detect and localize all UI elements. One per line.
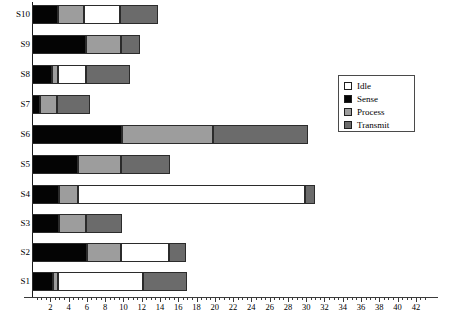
legend-label-process: Process [357, 108, 385, 117]
x-tick [370, 297, 371, 300]
x-tick [420, 297, 421, 300]
segment-s6-process [122, 125, 213, 144]
segment-s6-sense [32, 125, 122, 144]
y-axis-label-s5: S5 [0, 160, 30, 169]
bar-s6 [32, 125, 308, 144]
x-tick-label-36: 36 [357, 303, 366, 312]
x-tick-label-6: 6 [85, 303, 89, 312]
legend-item-transmit[interactable]: Transmit [344, 119, 409, 131]
bar-s2 [32, 243, 186, 262]
y-axis-label-s1: S1 [0, 277, 30, 286]
x-tick [37, 297, 38, 300]
bar-s7 [32, 95, 90, 114]
x-tick-label-24: 24 [247, 303, 256, 312]
x-tick [59, 297, 60, 300]
x-tick [101, 297, 102, 300]
x-tick [279, 297, 280, 300]
x-tick [375, 297, 376, 300]
x-tick-label-12: 12 [137, 303, 146, 312]
x-tick [91, 297, 92, 300]
stacked-bar-chart: S10S9S8S7S6S5S4S3S2S1 246810121416182022… [0, 0, 451, 325]
x-tick [229, 297, 230, 300]
x-tick [137, 297, 138, 300]
x-tick [224, 297, 225, 300]
segment-s9-sense [32, 35, 86, 54]
segment-s5-transmit [121, 155, 170, 174]
x-tick [297, 297, 298, 300]
bar-s3 [32, 214, 122, 233]
x-axis-ticks: 24681012141618202224262830323436384042 [32, 297, 451, 317]
segment-s5-process [78, 155, 121, 174]
segment-s7-process [40, 95, 56, 114]
segment-s8-idle [58, 65, 85, 84]
x-tick-label-42: 42 [412, 303, 421, 312]
segment-s10-sense [32, 5, 58, 24]
bar-s8 [32, 65, 130, 84]
chart-legend: IdleSenseProcessTransmit [338, 75, 415, 132]
y-axis-label-s8: S8 [0, 70, 30, 79]
x-tick-label-14: 14 [156, 303, 165, 312]
segment-s1-sense [32, 272, 53, 291]
x-tick-label-10: 10 [119, 303, 128, 312]
segment-s2-idle [121, 243, 169, 262]
bar-s5 [32, 155, 170, 174]
x-tick-label-38: 38 [375, 303, 384, 312]
segment-s5-sense [32, 155, 78, 174]
bar-s1 [32, 272, 187, 291]
segment-s8-sense [32, 65, 52, 84]
x-tick [393, 297, 394, 300]
x-tick [320, 297, 321, 300]
x-tick-label-34: 34 [339, 303, 348, 312]
x-tick [407, 297, 408, 300]
bar-s10 [32, 5, 158, 24]
legend-swatch-process-icon [344, 108, 352, 116]
segment-s1-idle [58, 272, 144, 291]
segment-s2-process [87, 243, 121, 262]
y-axis-label-s3: S3 [0, 219, 30, 228]
x-tick [210, 297, 211, 300]
legend-label-sense: Sense [357, 95, 378, 104]
x-tick [128, 297, 129, 300]
x-tick-label-18: 18 [192, 303, 201, 312]
x-tick [356, 297, 357, 300]
bar-s4 [32, 185, 315, 204]
legend-label-idle: Idle [357, 82, 371, 91]
x-tick-label-26: 26 [265, 303, 274, 312]
legend-item-sense[interactable]: Sense [344, 93, 409, 105]
segment-s3-sense [32, 214, 59, 233]
x-tick [155, 297, 156, 300]
x-tick [146, 297, 147, 300]
x-tick-label-16: 16 [174, 303, 183, 312]
x-tick [388, 297, 389, 300]
x-tick [329, 297, 330, 300]
segment-s3-process [59, 214, 86, 233]
x-tick [165, 297, 166, 300]
x-tick [82, 297, 83, 300]
x-tick-label-4: 4 [66, 303, 70, 312]
plot-area [32, 0, 451, 298]
segment-s6-transmit [213, 125, 308, 144]
x-tick [64, 297, 65, 300]
y-axis-label-s10: S10 [0, 10, 30, 19]
x-tick [292, 297, 293, 300]
x-tick [366, 297, 367, 300]
x-tick [315, 297, 316, 300]
x-tick [402, 297, 403, 300]
y-axis-label-s9: S9 [0, 40, 30, 49]
segment-s4-transmit [305, 185, 315, 204]
x-tick [46, 297, 47, 300]
x-tick [206, 297, 207, 300]
x-tick [174, 297, 175, 300]
legend-item-process[interactable]: Process [344, 106, 409, 118]
x-tick-label-22: 22 [229, 303, 238, 312]
segment-s10-process [58, 5, 85, 24]
x-tick [311, 297, 312, 300]
x-tick [411, 297, 412, 300]
legend-item-idle[interactable]: Idle [344, 80, 409, 92]
x-tick [219, 297, 220, 300]
x-tick [247, 297, 248, 300]
x-tick [187, 297, 188, 300]
x-tick [274, 297, 275, 300]
segment-s9-process [86, 35, 121, 54]
x-tick [183, 297, 184, 300]
